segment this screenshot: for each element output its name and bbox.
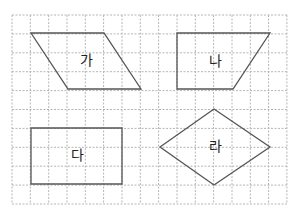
label-na: 나 bbox=[209, 53, 222, 69]
shape-grid-diagram: 가 나 다 라 bbox=[0, 0, 296, 219]
label-ga: 가 bbox=[80, 52, 93, 68]
dotted-grid bbox=[12, 15, 287, 204]
label-ra: 라 bbox=[209, 138, 222, 154]
shape-na-trapezoid bbox=[177, 33, 270, 89]
label-da: 다 bbox=[71, 147, 84, 163]
